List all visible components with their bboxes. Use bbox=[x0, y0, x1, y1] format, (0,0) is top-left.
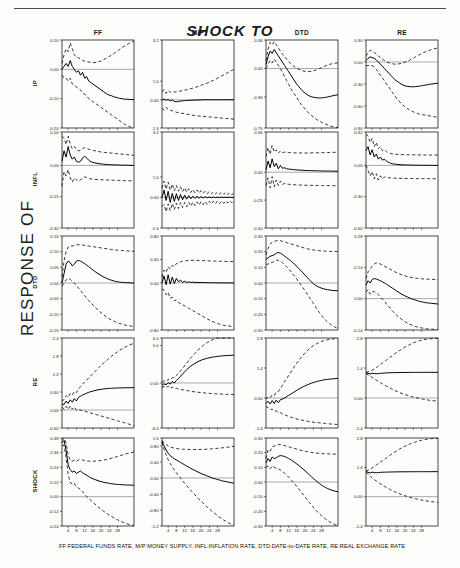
x-tick-label: 20 bbox=[303, 528, 308, 533]
median-response-line bbox=[366, 279, 438, 305]
upper-band-line bbox=[266, 338, 338, 399]
y-tick-label: 0.36 bbox=[50, 450, 59, 455]
median-response-line bbox=[366, 57, 438, 87]
column-header-mp: M/P bbox=[162, 29, 234, 36]
y-tick-label: 0.00 bbox=[254, 281, 263, 286]
y-tick-label: 0.80 bbox=[150, 444, 159, 449]
lower-band-line bbox=[266, 407, 338, 425]
x-tick-label: 12 bbox=[386, 528, 391, 533]
y-tick-label: 0.00 bbox=[50, 408, 59, 413]
y-tick-label: 0.00 bbox=[150, 476, 159, 481]
y-tick-label: 0.20 bbox=[254, 249, 263, 254]
y-tick-label: -1.5 bbox=[151, 226, 159, 231]
y-tick-label: -0.14 bbox=[353, 328, 363, 333]
y-tick-label: 0.00 bbox=[254, 480, 263, 485]
median-response-line bbox=[266, 50, 338, 98]
median-response-line bbox=[266, 456, 338, 492]
y-tick-label: -0.60 bbox=[353, 104, 363, 109]
median-response-line bbox=[162, 275, 234, 285]
y-tick-label: 0.00 bbox=[150, 381, 159, 386]
upper-band-line bbox=[162, 69, 234, 93]
x-tick-label: 4 bbox=[167, 528, 170, 533]
y-tick-label: 0.12 bbox=[50, 480, 59, 485]
y-tick-label: -0.30 bbox=[253, 524, 263, 529]
panel-ip-re: -0.90-0.60-0.300.000.30 bbox=[353, 38, 438, 131]
lower-band-line bbox=[62, 278, 134, 326]
panel-re-re: -1.40.001.42.8 bbox=[354, 336, 438, 431]
y-tick-label: -0.12 bbox=[49, 509, 59, 514]
lower-band-line bbox=[266, 466, 338, 526]
row-header-infl: INFL bbox=[32, 166, 38, 192]
y-tick-label: 0.40 bbox=[150, 257, 159, 262]
y-tick-label: -1.4 bbox=[355, 524, 363, 529]
panel-infl-mp: -1.50.001.03.2 bbox=[150, 130, 234, 231]
y-tick-label: 0.00 bbox=[150, 98, 159, 103]
y-tick-label: -0.40 bbox=[149, 492, 159, 497]
y-tick-label: 0.05 bbox=[50, 265, 59, 270]
x-tick-label: 12 bbox=[182, 528, 187, 533]
upper-band-line bbox=[62, 245, 134, 277]
y-tick-label: 2.8 bbox=[357, 436, 363, 441]
y-tick-label: 0.00 bbox=[354, 396, 363, 401]
median-response-line bbox=[162, 355, 234, 385]
upper-band-line bbox=[366, 263, 438, 280]
y-tick-label: 0.00 bbox=[354, 494, 363, 499]
x-tick-label: 4 bbox=[67, 528, 70, 533]
y-tick-label: 0.00 bbox=[150, 195, 159, 200]
x-tick-label: 8 bbox=[279, 528, 282, 533]
y-tick-label: 0.00 bbox=[254, 170, 263, 175]
panel-grid: -0.20-0.100.000.10-1.50.001.03.2-0.75-0.… bbox=[0, 0, 460, 568]
y-tick-label: 1.2 bbox=[53, 372, 59, 377]
median-response-line bbox=[266, 159, 338, 172]
x-tick-label: 20 bbox=[403, 528, 408, 533]
y-tick-label: 0.10 bbox=[254, 465, 263, 470]
y-tick-label: 1.4 bbox=[257, 366, 263, 371]
lower-band-line bbox=[62, 445, 134, 525]
median-response-line bbox=[62, 147, 134, 166]
upper-band-line bbox=[162, 440, 234, 449]
figure-left-title: RESPONSE OF bbox=[18, 178, 38, 358]
panel-re-dtd: -1.40.001.42.8 bbox=[254, 336, 338, 431]
y-tick-label: 0.00 bbox=[50, 67, 59, 72]
lower-band-line bbox=[266, 177, 338, 188]
y-tick-label: 0.40 bbox=[150, 460, 159, 465]
y-tick-label: 1.4 bbox=[357, 366, 363, 371]
y-tick-label: -0.30 bbox=[353, 194, 363, 199]
median-response-line bbox=[62, 388, 134, 405]
x-tick-label: 12 bbox=[82, 528, 87, 533]
median-response-line bbox=[366, 472, 438, 473]
lower-band-line bbox=[266, 260, 338, 328]
y-tick-label: 1.8 bbox=[53, 354, 59, 359]
upper-band-line bbox=[62, 343, 134, 401]
x-tick-label: 20 bbox=[199, 528, 204, 533]
lower-band-line bbox=[366, 165, 438, 180]
figure-caption: FF:FEDERAL FUNDS RATE, M/P:MONEY SUPPLY,… bbox=[28, 543, 436, 549]
y-tick-label: -0.50 bbox=[253, 226, 263, 231]
upper-band-line bbox=[366, 438, 438, 471]
x-tick-label: 4 bbox=[371, 528, 374, 533]
lower-band-line bbox=[366, 373, 438, 401]
y-tick-label: 3.2 bbox=[153, 130, 159, 135]
x-tick-label: 20 bbox=[99, 528, 104, 533]
y-tick-label: 2.8 bbox=[357, 336, 363, 341]
panel-dtd-ff: -0.15-0.10-0.050.000.050.100.15 bbox=[49, 234, 134, 333]
y-tick-label: 1.0 bbox=[153, 79, 159, 84]
upper-band-line bbox=[62, 136, 134, 155]
upper-band-line bbox=[266, 145, 338, 156]
upper-band-line bbox=[266, 445, 338, 459]
median-response-line bbox=[366, 372, 438, 374]
lower-band-line bbox=[366, 472, 438, 502]
lower-band-line bbox=[162, 386, 234, 395]
upper-band-line bbox=[162, 181, 234, 195]
y-tick-label: 0.36 bbox=[254, 130, 263, 135]
y-tick-label: 0.00 bbox=[50, 163, 59, 168]
median-response-line bbox=[62, 260, 134, 283]
panel-shock-ff: -0.24-0.120.000.120.240.360.484812162024… bbox=[49, 436, 134, 534]
panel-re-ff: -0.600.000.601.21.82.4 bbox=[49, 336, 134, 431]
y-tick-label: -0.15 bbox=[49, 328, 59, 333]
x-tick-label: 16 bbox=[395, 528, 400, 533]
x-tick-label: 8 bbox=[75, 528, 78, 533]
upper-band-line bbox=[62, 41, 134, 63]
x-tick-label: 24 bbox=[411, 528, 416, 533]
y-tick-label: 1.0 bbox=[153, 436, 159, 441]
